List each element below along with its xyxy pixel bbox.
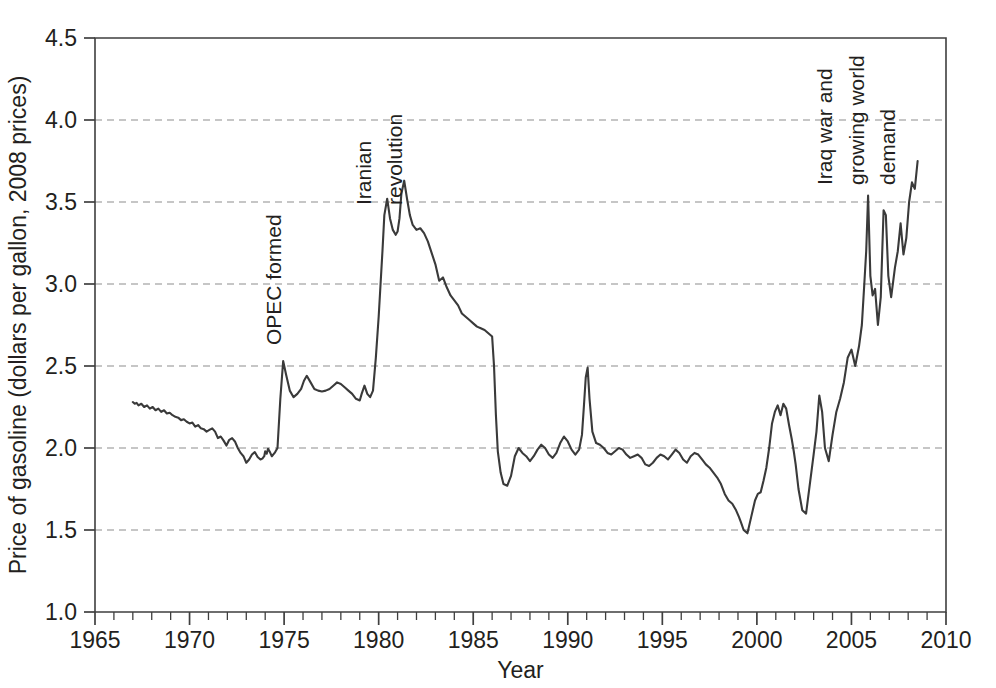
y-axis-title: Price of gasoline (dollars per gallon, 2… (5, 76, 31, 575)
y-tick-label-1: 1.0 (45, 599, 77, 625)
x-axis-title: Year (497, 657, 544, 683)
y-tick-label-2.5: 2.5 (45, 353, 77, 379)
x-axis-tick-labels-group: 1965197019751980198519901995200020052010 (69, 627, 971, 653)
x-tick-label-1990: 1990 (542, 627, 593, 653)
y-tick-label-4.5: 4.5 (45, 25, 77, 51)
annotations-group: OPEC formedIranianrevolutionIraq war and… (262, 55, 899, 345)
annotation-iraq-war-line-1: growing world (845, 55, 868, 185)
x-tick-label-2010: 2010 (920, 627, 971, 653)
chart-canvas: 1.01.52.02.53.03.54.04.5 196519701975198… (0, 0, 996, 688)
y-tick-label-2: 2.0 (45, 435, 77, 461)
x-tick-label-1980: 1980 (353, 627, 404, 653)
x-axis-ticks-group (95, 612, 946, 625)
annotation-iranian-revolution-line-0: Iranian (352, 141, 375, 205)
gasoline-price-chart: 1.01.52.02.53.03.54.04.5 196519701975198… (0, 0, 996, 688)
x-tick-label-1970: 1970 (164, 627, 215, 653)
x-tick-label-1975: 1975 (259, 627, 310, 653)
y-axis-tick-labels-group: 1.01.52.02.53.03.54.04.5 (45, 25, 77, 625)
annotation-iranian-revolution: Iranianrevolution (352, 114, 406, 205)
x-tick-label-1985: 1985 (448, 627, 499, 653)
y-tick-label-3: 3.0 (45, 271, 77, 297)
annotation-iraq-war-line-0: Iraq war and (813, 68, 836, 185)
x-tick-label-2000: 2000 (731, 627, 782, 653)
y-tick-label-4: 4.0 (45, 107, 77, 133)
x-tick-label-1965: 1965 (69, 627, 120, 653)
y-tick-label-1.5: 1.5 (45, 517, 77, 543)
x-tick-label-1995: 1995 (637, 627, 688, 653)
y-tick-label-3.5: 3.5 (45, 189, 77, 215)
series-line-0 (133, 161, 918, 533)
annotation-opec: OPEC formed (262, 214, 285, 345)
annotation-opec-line-0: OPEC formed (262, 214, 285, 345)
annotation-iraq-war: Iraq war andgrowing worlddemand (813, 55, 899, 185)
y-axis-ticks-group (84, 38, 95, 612)
data-series-group (133, 161, 918, 533)
annotation-iranian-revolution-line-1: revolution (383, 114, 406, 205)
annotation-iraq-war-line-2: demand (876, 109, 899, 185)
x-tick-label-2005: 2005 (826, 627, 877, 653)
